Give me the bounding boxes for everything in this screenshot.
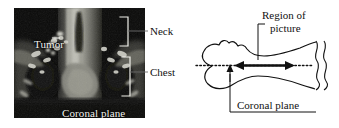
- diagram-label-coronal-plane: Coronal plane: [237, 99, 299, 111]
- coronal-plane-arrowhead: [227, 64, 234, 82]
- diagram-label-picture: picture: [270, 22, 301, 34]
- region-extent-arrow: [234, 61, 295, 70]
- break-marks: [315, 41, 327, 90]
- figure-container: Tumor Coronal plane Neck Chest: [0, 0, 339, 128]
- diagram-label-region-of: Region of: [262, 9, 306, 21]
- region-of-picture-leader: [258, 24, 265, 60]
